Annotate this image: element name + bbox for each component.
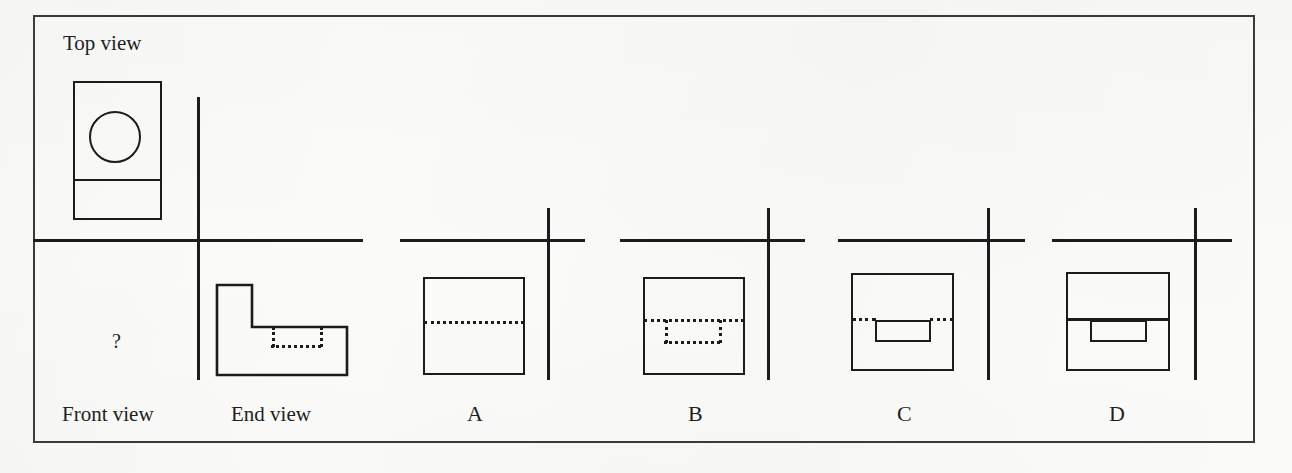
option-c-label[interactable]: C (897, 403, 912, 425)
option-b-label[interactable]: B (688, 403, 703, 425)
option-d-solid-pocket (1090, 320, 1147, 342)
end-view-l-profile (205, 275, 365, 390)
option-b-axis-horizontal-line (620, 239, 805, 242)
front-view-label: Front view (62, 404, 154, 425)
top-view-divider-line (73, 179, 162, 181)
option-a-axis-vertical-line (547, 208, 550, 380)
option-b-hidden-line (644, 319, 744, 322)
option-c-hidden-line-left-segment (852, 318, 876, 321)
option-a-hidden-line (424, 321, 524, 324)
end-view-hidden-pocket-left-edge (272, 327, 275, 347)
option-d-axis-horizontal-line (1052, 239, 1232, 242)
option-c-hidden-line-right-segment (930, 318, 953, 321)
end-view-hidden-pocket-right-edge (320, 327, 323, 347)
front-view-question-mark: ? (112, 331, 121, 351)
option-b-hidden-pocket-bottom-edge (664, 341, 720, 344)
option-c-axis-vertical-line (987, 208, 990, 380)
option-a-label[interactable]: A (467, 403, 483, 425)
top-view-label: Top view (63, 33, 141, 54)
option-b-axis-vertical-line (767, 208, 770, 380)
option-a-outline[interactable] (423, 277, 525, 375)
top-view-hole-circle (89, 111, 141, 163)
option-b-hidden-pocket-right-edge (719, 320, 722, 343)
given-axis-horizontal-line (33, 239, 363, 242)
end-view-outline-path (217, 285, 347, 375)
end-view-label: End view (231, 404, 311, 425)
option-b-outline[interactable] (643, 277, 745, 375)
option-c-solid-pocket (875, 320, 931, 342)
option-d-label[interactable]: D (1109, 403, 1125, 425)
end-view-hidden-pocket-bottom-edge (271, 345, 321, 348)
figure-canvas: Top view ? Front view End view A B C (0, 0, 1292, 473)
option-c-axis-horizontal-line (838, 239, 1025, 242)
option-d-axis-vertical-line (1194, 208, 1197, 380)
option-a-axis-horizontal-line (400, 239, 585, 242)
option-b-hidden-pocket-left-edge (665, 320, 668, 343)
